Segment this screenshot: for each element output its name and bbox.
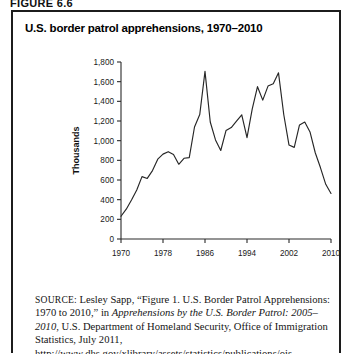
chart-title: U.S. border patrol apprehensions, 1970–2…	[25, 22, 262, 34]
x-axis: 197019781986199420022010	[112, 239, 339, 258]
y-tick-label: 600	[100, 176, 114, 185]
y-tick-label: 1,000	[94, 137, 115, 146]
figure-box: U.S. border patrol apprehensions, 1970–2…	[11, 10, 341, 353]
x-tick-label: 1978	[154, 249, 173, 258]
y-axis: 02004006008001,0001,2001,4001,6001,800	[94, 58, 122, 244]
y-tick-label: 200	[100, 215, 114, 224]
chart-plot-area: 02004006008001,0001,2001,4001,6001,800 1…	[13, 54, 339, 276]
x-tick-label: 1986	[196, 249, 215, 258]
y-tick-label: 1,600	[94, 78, 115, 87]
apprehensions-line-chart: 02004006008001,0001,2001,4001,6001,800 1…	[13, 54, 339, 276]
series-line	[121, 71, 331, 216]
x-tick-label: 1970	[112, 249, 131, 258]
source-note: SOURCE: Lesley Sapp, “Figure 1. U.S. Bor…	[35, 293, 341, 354]
data-series	[121, 71, 331, 216]
source-label: SOURCE:	[35, 294, 77, 305]
x-tick-label: 2010	[322, 249, 339, 258]
x-tick-label: 2002	[280, 249, 299, 258]
figure-label: FIGURE 6.6	[10, 0, 73, 9]
y-axis-title-text: Thousands	[71, 126, 81, 174]
x-tick-label: 1994	[238, 249, 257, 258]
y-axis-title: Thousands	[71, 126, 81, 174]
y-tick-label: 1,200	[94, 117, 115, 126]
y-tick-label: 400	[100, 196, 114, 205]
y-tick-label: 800	[100, 156, 114, 165]
y-tick-label: 1,400	[94, 97, 115, 106]
y-tick-label: 1,800	[94, 58, 115, 67]
y-tick-label: 0	[109, 235, 114, 244]
source-text-after: , U.S. Department of Homeland Security, …	[35, 321, 328, 354]
